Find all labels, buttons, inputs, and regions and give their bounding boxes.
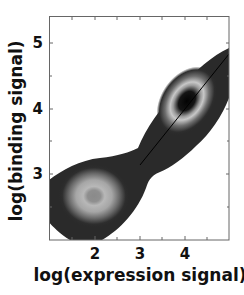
x-tick-label-3: 3 xyxy=(135,245,145,263)
x-tick-label-2: 2 xyxy=(90,245,100,263)
x-axis-label: log(expression signal) xyxy=(33,265,244,285)
x-tick-label-4: 4 xyxy=(180,245,190,263)
density-plot: 2 3 4 5 4 3 log(expression signal) log(b… xyxy=(0,0,244,295)
density-mode-low xyxy=(58,164,130,228)
y-tick-label-4: 4 xyxy=(33,100,43,118)
y-tick-label-5: 5 xyxy=(33,34,43,52)
y-tick-label-3: 3 xyxy=(33,165,43,183)
density-region xyxy=(49,48,230,240)
y-axis-label: log(binding signal) xyxy=(6,40,26,221)
